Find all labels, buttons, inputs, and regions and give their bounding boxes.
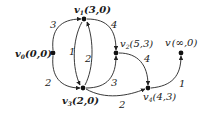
- label-v3: v3(2,0): [62, 95, 99, 107]
- label-v1: v1(3,0): [74, 4, 111, 16]
- label-v2: v2(5,3): [120, 38, 153, 50]
- edge-v4-v: [151, 56, 181, 88]
- weight-v0-v1: 3: [50, 19, 56, 30]
- node-v4: [146, 86, 151, 91]
- node-v1: [82, 17, 87, 22]
- weight-v4-v: 1: [179, 78, 185, 89]
- weight-v0-v3: 2: [44, 77, 51, 88]
- weight-v1-v3: 1: [69, 46, 75, 57]
- label-v: v(∞,0): [165, 37, 197, 48]
- label-v4: v4(4,3): [143, 91, 176, 103]
- graph-diagram: 3 2 1 2 4 3 4 2 1 v0(0,0) v1(3,0) v2(5,3…: [0, 0, 207, 115]
- weight-v1-v2: 4: [110, 19, 117, 30]
- weight-v3-v4: 2: [118, 99, 125, 110]
- node-v3: [81, 86, 86, 91]
- edge-v1-v3: [74, 22, 82, 85]
- weight-v2-v4: 4: [143, 53, 150, 64]
- weight-v3-v2: 3: [111, 77, 117, 88]
- label-v0: v0(0,0): [15, 48, 52, 60]
- node-v: [179, 51, 184, 56]
- weight-v3-v1: 2: [84, 53, 91, 64]
- node-v2: [114, 51, 119, 56]
